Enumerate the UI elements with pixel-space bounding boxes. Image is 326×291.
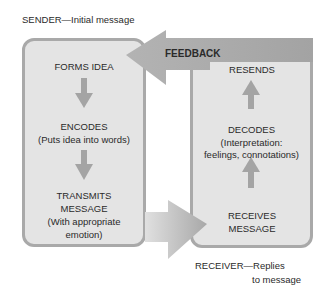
step-detail-2: feelings, connotations) (190, 149, 313, 162)
receiver-caption-line-2: to message (252, 274, 301, 286)
step-title: ENCODES (22, 121, 146, 134)
step-detail-2: emotion) (22, 228, 146, 241)
up-arrow-icon (242, 80, 260, 109)
step-detail: (With appropriate (22, 215, 146, 228)
feedback-label: FEEDBACK (165, 48, 221, 60)
up-arrow-icon (242, 157, 260, 188)
step-title: RESENDS (192, 64, 312, 77)
step-receives: RECEIVES MESSAGE (192, 209, 312, 235)
step-title: RECEIVES (192, 209, 312, 222)
step-detail: (Puts idea into words) (22, 134, 146, 147)
step-title-2: MESSAGE (192, 222, 312, 235)
step-title: DECODES (190, 124, 313, 137)
step-forms-idea: FORMS IDEA (22, 61, 146, 74)
step-title: TRANSMITS (22, 189, 146, 202)
step-encodes: ENCODES (Puts idea into words) (22, 121, 146, 146)
receiver-caption-line-1: RECEIVER—Replies (195, 260, 285, 272)
step-resends: RESENDS (192, 64, 312, 77)
down-arrow-icon (75, 150, 93, 180)
step-title: FORMS IDEA (22, 61, 146, 74)
step-detail: (Interpretation: (190, 137, 313, 150)
step-decodes: DECODES (Interpretation: feelings, conno… (190, 124, 313, 162)
step-title-2: MESSAGE (22, 202, 146, 215)
down-arrow-icon (75, 78, 93, 108)
step-transmits: TRANSMITS MESSAGE (With appropriate emot… (22, 189, 146, 241)
